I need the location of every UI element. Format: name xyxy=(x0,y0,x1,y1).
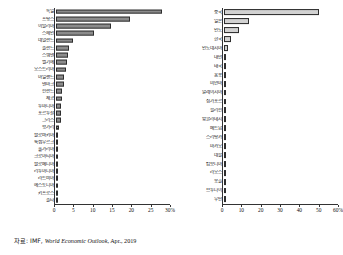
bar xyxy=(224,81,226,87)
category-label: 싱가포르 xyxy=(180,99,224,104)
bar-row: 폴란드 xyxy=(4,44,170,51)
plot-area-asia: 중국일본인도한국인도네시아대만태국홍콩미얀마말레이시아싱가포르필리핀방글라데시베… xyxy=(180,8,338,204)
bar xyxy=(56,154,58,159)
bar xyxy=(224,161,226,167)
source-publication-title: World Economic Outlook xyxy=(45,237,108,244)
category-label: 일본 xyxy=(180,19,224,24)
bar xyxy=(224,90,226,96)
bar-cell xyxy=(224,44,338,53)
bar xyxy=(56,111,61,116)
bar xyxy=(224,72,226,78)
category-label: 루마니아 xyxy=(4,104,56,109)
bar xyxy=(224,152,226,158)
bar-row: 대만 xyxy=(180,53,338,62)
plot-area-europe: 독일프랑스이탈리아스페인네덜란드폴란드스웨덴벨기에오스트리아아일랜드덴마크핀란드… xyxy=(4,8,170,204)
bar-row: 포르투갈 xyxy=(4,110,170,117)
bar-row: 몰타 xyxy=(4,197,170,204)
bar-row: 루마니아 xyxy=(4,102,170,109)
category-label: 스리랑카 xyxy=(180,135,224,140)
bar xyxy=(224,116,226,122)
bar xyxy=(224,18,249,24)
bar xyxy=(56,198,58,203)
bar xyxy=(56,9,162,14)
bar-cell xyxy=(56,23,170,30)
category-label: 라오스 xyxy=(180,170,224,175)
bar-row: 그리스 xyxy=(4,117,170,124)
bar-row: 인도 xyxy=(180,26,338,35)
category-label: 중국 xyxy=(180,10,224,15)
category-label: 체코 xyxy=(4,96,56,101)
bar-row: 키프로스 xyxy=(4,189,170,196)
bar xyxy=(224,125,226,131)
bar-row: 핀란드 xyxy=(4,88,170,95)
bar-row: 네팔 xyxy=(180,151,338,160)
category-label: 브루나이 xyxy=(180,188,224,193)
bar-row: 방글라데시 xyxy=(180,115,338,124)
bar-row: 한국 xyxy=(180,35,338,44)
bar xyxy=(56,118,61,123)
bar-row: 태국 xyxy=(180,61,338,70)
bar xyxy=(224,27,239,33)
bar-cell xyxy=(224,159,338,168)
bar xyxy=(224,45,228,51)
category-label: 에스토니아 xyxy=(4,183,56,188)
category-label: 말레이시아 xyxy=(180,90,224,95)
bar xyxy=(224,143,226,149)
category-label: 한국 xyxy=(180,37,224,42)
category-label: 독일 xyxy=(4,9,56,14)
category-label: 슬로베니아 xyxy=(4,162,56,167)
bar-cell xyxy=(56,168,170,175)
bar xyxy=(56,169,58,174)
category-label: 네팔 xyxy=(180,153,224,158)
bar-row: 덴마크 xyxy=(4,81,170,88)
bar xyxy=(56,38,73,43)
bar xyxy=(224,99,226,105)
source-suffix: , Apr., 2019 xyxy=(107,237,136,244)
axis-tick-label: 40 xyxy=(297,208,302,213)
bar-row: 중국 xyxy=(180,8,338,17)
bar xyxy=(224,179,226,185)
category-label: 몰타 xyxy=(4,198,56,203)
category-label: 부탄 xyxy=(180,197,224,202)
bar-row: 오스트리아 xyxy=(4,66,170,73)
bar-cell xyxy=(56,182,170,189)
category-label: 네덜란드 xyxy=(4,38,56,43)
bar xyxy=(56,67,66,72)
bar-cell xyxy=(56,160,170,167)
category-label: 슬로바키아 xyxy=(4,133,56,138)
bar-row: 룩셈부르크 xyxy=(4,139,170,146)
category-label: 미얀마 xyxy=(180,81,224,86)
bar xyxy=(56,147,58,152)
bar-row: 말레이시아 xyxy=(180,88,338,97)
bar-cell xyxy=(224,97,338,106)
bar-row: 필리핀 xyxy=(180,106,338,115)
bar-cell xyxy=(56,139,170,146)
bar-row: 브루나이 xyxy=(180,186,338,195)
bar-cell xyxy=(56,73,170,80)
category-label: 태국 xyxy=(180,64,224,69)
bar xyxy=(224,10,319,16)
bar xyxy=(56,53,68,58)
axis-tick-label: 0 xyxy=(53,208,56,213)
bar-cell xyxy=(224,124,338,133)
bar xyxy=(56,183,58,188)
bar-row: 스웨덴 xyxy=(4,52,170,59)
bar-cell xyxy=(56,52,170,59)
category-label: 대만 xyxy=(180,55,224,60)
axis-tick-label: 15 xyxy=(109,208,114,213)
bar-cell xyxy=(56,197,170,204)
axis-tick-label: 60% xyxy=(333,208,343,213)
chart-panel-asia: 중국일본인도한국인도네시아대만태국홍콩미얀마말레이시아싱가포르필리핀방글라데시베… xyxy=(180,8,338,218)
bar xyxy=(56,176,58,181)
category-label: 룩셈부르크 xyxy=(4,140,56,145)
bar-cell xyxy=(56,153,170,160)
bar-cell xyxy=(56,124,170,131)
bar-cell xyxy=(224,177,338,186)
category-label: 프랑스 xyxy=(4,17,56,22)
category-label: 인도 xyxy=(180,28,224,33)
category-label: 그리스 xyxy=(4,118,56,123)
bar xyxy=(56,24,111,29)
bar-row: 에스토니아 xyxy=(4,182,170,189)
bar-row: 리투아니아 xyxy=(4,168,170,175)
